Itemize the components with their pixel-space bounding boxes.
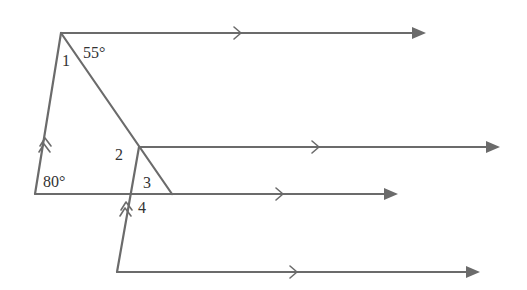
angle-label-2: 2 [115,146,123,163]
base-ray [35,188,398,200]
arrowhead-icon [486,141,500,153]
top-ray [61,27,426,39]
lower-slanted-side [117,147,139,272]
arrowhead-icon [384,188,398,200]
middle-ray [139,141,500,153]
angle-label-1: 1 [62,52,70,69]
geometry-diagram: 55° 1 2 80° 3 4 [0,0,527,290]
arrowhead-icon [412,27,426,39]
angle-label-4: 4 [138,199,146,216]
angle-label-3: 3 [143,174,151,191]
angle-label-80: 80° [43,173,65,190]
arrowhead-icon [466,266,480,278]
left-side [35,33,61,194]
lowest-ray [117,266,480,278]
transversal-line [61,33,172,194]
angle-label-55: 55° [83,44,105,61]
